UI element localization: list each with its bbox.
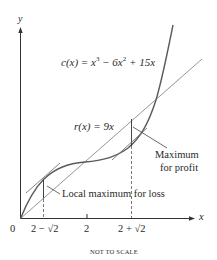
loss-leader-line <box>47 186 60 194</box>
profit-annotation-line2: for profit <box>160 163 198 174</box>
y-axis-arrow-icon <box>18 27 22 33</box>
loss-annotation: Local maximum for loss <box>62 189 165 200</box>
cost-label-tail: + 15x <box>126 56 155 68</box>
not-to-scale-note: NOT TO SCALE <box>90 249 138 256</box>
tick-label-2-minus-sqrt2: 2 − √2 <box>31 224 58 235</box>
origin-label: 0 <box>10 224 15 235</box>
cost-label-prefix: c(x) = x <box>61 56 96 68</box>
cost-function-label: c(x) = x3 − 6x2 + 15x <box>61 56 155 68</box>
y-axis-label: y <box>18 14 22 24</box>
x-axis-label: x <box>199 212 204 223</box>
tick-label-2: 2 <box>84 224 89 235</box>
tick-label-2-plus-sqrt2: 2 + √2 <box>118 224 145 235</box>
x-axis-arrow-icon <box>189 216 195 220</box>
profit-annotation-line1: Maximum <box>155 150 199 161</box>
cost-label-mid: − 6x <box>99 56 122 68</box>
revenue-function-label: r(x) = 9x <box>74 121 114 132</box>
